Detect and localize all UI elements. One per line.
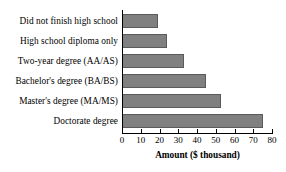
y-axis-line <box>122 10 123 134</box>
x-axis-tick <box>141 129 142 133</box>
x-axis-tick <box>197 129 198 133</box>
category-label: Did not finish high school <box>0 16 118 26</box>
bar <box>122 74 206 88</box>
x-axis-tick <box>122 129 123 133</box>
plot-area <box>122 10 272 133</box>
x-axis-tick <box>178 129 179 133</box>
category-label: High school diploma only <box>0 36 118 46</box>
bar <box>122 54 184 68</box>
x-axis-title: Amount ($ thousand) <box>122 150 273 160</box>
category-label: Two-year degree (AA/AS) <box>0 56 118 66</box>
x-axis-tick <box>160 129 161 133</box>
bar <box>122 114 263 128</box>
bar-chart: Did not finish high school High school d… <box>0 0 286 172</box>
bar <box>122 94 221 108</box>
x-axis-tick-label: 80 <box>260 135 284 146</box>
x-axis-tick <box>272 129 273 133</box>
bar <box>122 14 158 28</box>
x-axis-tick <box>253 129 254 133</box>
x-axis-tick <box>235 129 236 133</box>
bar <box>122 34 167 48</box>
x-axis-line <box>122 133 273 134</box>
category-label: Bachelor's degree (BA/BS) <box>0 76 118 86</box>
category-label: Doctorate degree <box>0 116 118 126</box>
category-label: Master's degree (MA/MS) <box>0 96 118 106</box>
x-axis-tick <box>216 129 217 133</box>
